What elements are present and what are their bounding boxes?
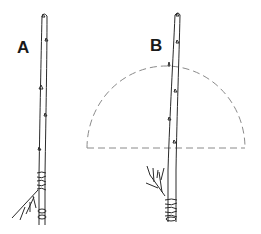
bud-icon <box>44 113 47 116</box>
dashed-dome <box>87 66 245 148</box>
bud-icon <box>168 62 170 66</box>
binding-wrap <box>165 199 177 217</box>
bud-icon <box>174 89 177 92</box>
cutting-a <box>12 14 48 225</box>
roots <box>12 190 38 220</box>
bud-icon <box>173 140 176 143</box>
bud-icon <box>38 147 41 150</box>
twigs <box>146 166 165 196</box>
cuttings-illustration <box>0 0 261 234</box>
cutting-b <box>146 13 180 222</box>
bud-icon <box>176 40 179 43</box>
bud-icon <box>45 38 48 41</box>
